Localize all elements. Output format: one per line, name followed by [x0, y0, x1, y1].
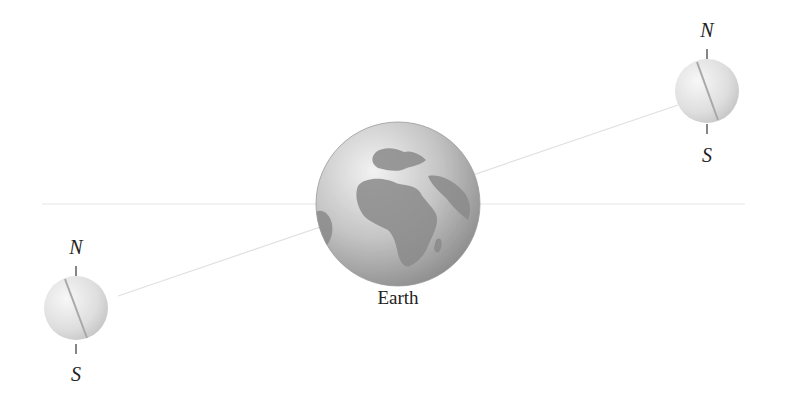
moon-left: N S [44, 236, 108, 385]
moon-left-south-label: S [71, 363, 81, 385]
earth-label: Earth [377, 287, 419, 308]
earth-globe [316, 122, 480, 286]
moon-right-north-label: N [699, 19, 715, 41]
moon-right: N S [675, 19, 739, 166]
moon-left-north-label: N [68, 236, 84, 258]
moon-right-south-label: S [702, 144, 712, 166]
diagram-canvas: Earth N S N S [0, 0, 785, 397]
